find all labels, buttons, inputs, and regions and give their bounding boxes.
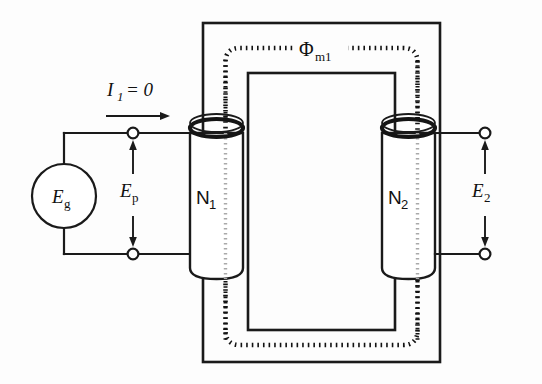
source-label: E bbox=[51, 186, 64, 207]
primary-coil[interactable]: N 1 bbox=[190, 114, 243, 279]
primary-voltage-subscript: p bbox=[132, 190, 139, 205]
primary-turns-label: N bbox=[196, 187, 210, 208]
primary-voltage-label: E bbox=[119, 180, 132, 201]
core-inner-window bbox=[248, 73, 395, 330]
transformer-figure: E g E p I 1 = 0 bbox=[0, 0, 542, 384]
output-terminal-bottom[interactable] bbox=[480, 249, 491, 260]
ep-arrowhead-up bbox=[129, 140, 137, 150]
primary-current-label: I bbox=[106, 79, 115, 100]
e2-arrowhead-up bbox=[481, 140, 489, 150]
primary-turns-subscript: 1 bbox=[209, 197, 216, 212]
primary-current-subscript: 1 bbox=[117, 89, 124, 104]
secondary-voltage-label: E bbox=[471, 180, 484, 201]
secondary-voltage-arrow: E 2 bbox=[471, 140, 491, 247]
ep-arrowhead-down bbox=[129, 237, 137, 247]
input-terminal-top[interactable] bbox=[128, 128, 139, 139]
secondary-turns-subscript: 2 bbox=[401, 197, 408, 212]
mutual-flux-label: Φ bbox=[299, 38, 314, 60]
secondary-coil[interactable]: N 2 bbox=[382, 114, 435, 279]
secondary-voltage-subscript: 2 bbox=[484, 190, 491, 205]
mutual-flux-annotation: Φ m1 bbox=[296, 33, 348, 64]
input-terminal-bottom[interactable] bbox=[128, 249, 139, 260]
mutual-flux-subscript: m1 bbox=[315, 49, 332, 64]
primary-current-value: = 0 bbox=[126, 79, 154, 100]
e2-arrowhead-down bbox=[481, 237, 489, 247]
primary-current-arrowhead bbox=[160, 112, 170, 120]
primary-current-annotation: I 1 = 0 bbox=[106, 79, 170, 120]
output-terminal-top[interactable] bbox=[480, 128, 491, 139]
source-label-subscript: g bbox=[64, 196, 71, 211]
transformer-diagram: E g E p I 1 = 0 bbox=[0, 0, 542, 384]
primary-voltage-arrow: E p bbox=[119, 140, 139, 247]
secondary-turns-label: N bbox=[388, 187, 402, 208]
ac-voltage-source[interactable]: E g bbox=[32, 164, 96, 228]
